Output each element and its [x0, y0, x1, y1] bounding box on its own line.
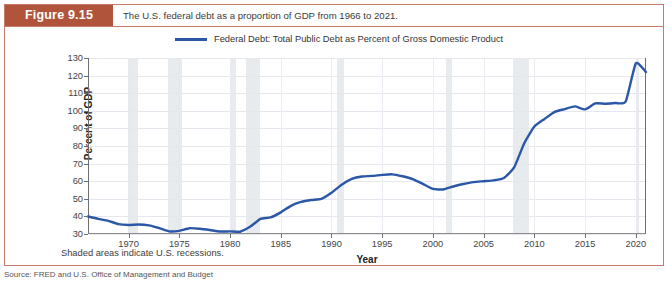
y-axis-tick-mark	[84, 216, 88, 217]
x-axis-tick-label: 2015	[575, 239, 596, 249]
y-axis-tick-mark	[84, 128, 88, 129]
x-axis-tick-label: 1985	[270, 239, 291, 249]
x-axis-tick-mark	[636, 234, 637, 238]
y-axis-tick-label: 50	[73, 194, 83, 204]
y-axis-tick-mark	[84, 199, 88, 200]
figure-caption: The U.S. federal debt as a proportion of…	[123, 5, 398, 26]
x-axis-tick-mark	[534, 234, 535, 238]
x-axis-tick-label: 2010	[524, 239, 545, 249]
x-axis-tick-mark	[585, 234, 586, 238]
y-axis-tick-mark	[84, 234, 88, 235]
x-axis-tick-label: 2000	[423, 239, 444, 249]
x-axis-tick-label: 1995	[372, 239, 393, 249]
figure-header: Figure 9.15 The U.S. federal debt as a p…	[5, 5, 663, 26]
figure-number-badge: Figure 9.15	[5, 5, 113, 26]
figure-container: Figure 9.15 The U.S. federal debt as a p…	[4, 4, 664, 266]
x-axis-tick-mark	[484, 234, 485, 238]
y-axis-tick-mark	[84, 164, 88, 165]
x-axis-tick-mark	[281, 234, 282, 238]
x-axis-tick-mark	[179, 234, 180, 238]
y-axis-tick-label: 80	[73, 141, 83, 151]
chart-legend: Federal Debt: Total Public Debt as Perce…	[175, 32, 503, 46]
x-axis-tick-mark	[331, 234, 332, 238]
x-axis-tick-label: 2005	[473, 239, 494, 249]
x-axis-tick-mark	[433, 234, 434, 238]
y-axis-tick-label: 90	[73, 123, 83, 133]
x-axis-tick-label: 2020	[626, 239, 647, 249]
gridline-horizontal	[89, 234, 645, 235]
figure-source: Source: FRED and U.S. Office of Manageme…	[4, 270, 213, 279]
header-divider	[5, 26, 663, 27]
y-axis-tick-mark	[84, 146, 88, 147]
series-line-federal-debt	[88, 58, 646, 234]
y-axis-tick-label: 120	[67, 71, 83, 81]
x-axis-tick-mark	[382, 234, 383, 238]
legend-label-federal-debt: Federal Debt: Total Public Debt as Perce…	[214, 34, 503, 44]
y-axis-tick-mark	[84, 111, 88, 112]
y-axis-tick-label: 130	[67, 53, 83, 63]
y-axis-tick-label: 30	[73, 229, 83, 239]
y-axis-tick-label: 70	[73, 159, 83, 169]
y-axis-tick-mark	[84, 58, 88, 59]
x-axis-tick-mark	[129, 234, 130, 238]
plot-area: Percent of GDP 3040506070809010011012013…	[88, 58, 646, 234]
series-path	[88, 63, 646, 232]
recession-note: Shaded areas indicate U.S. recessions.	[61, 248, 224, 258]
x-axis-tick-label: 1990	[321, 239, 342, 249]
y-axis-tick-mark	[84, 76, 88, 77]
y-axis-tick-label: 60	[73, 176, 83, 186]
y-axis-tick-mark	[84, 93, 88, 94]
legend-swatch-federal-debt	[175, 38, 207, 41]
y-axis-tick-label: 100	[67, 106, 83, 116]
y-axis-tick-label: 110	[68, 88, 83, 98]
y-axis-tick-label: 40	[73, 211, 83, 221]
y-axis-tick-mark	[84, 181, 88, 182]
x-axis-tick-mark	[230, 234, 231, 238]
